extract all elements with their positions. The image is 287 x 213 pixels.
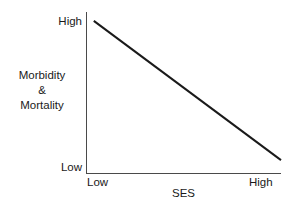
chart-figure: Morbidity & Mortality High Low Low High … bbox=[0, 0, 287, 213]
plot-area bbox=[0, 0, 287, 213]
x-axis-title: SES bbox=[86, 187, 281, 200]
data-line-series-1 bbox=[94, 21, 281, 160]
